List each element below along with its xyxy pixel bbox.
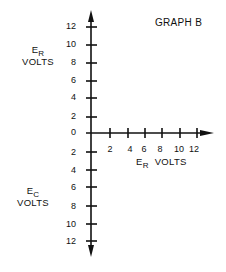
- y-tick-label: 8: [56, 202, 76, 211]
- y-tick-label: 4: [56, 93, 76, 102]
- y-tick-label: 6: [56, 76, 76, 85]
- y-lower-axis-label: EC VOLTS: [15, 186, 51, 208]
- y-tick-label: 12: [56, 237, 76, 246]
- x-tick-label: 8: [152, 145, 168, 154]
- x-tick-label: 10: [171, 145, 187, 154]
- up-arrow-icon: [88, 10, 94, 22]
- y-tick-label: 12: [56, 22, 76, 31]
- y-upper-label-sub: R: [38, 49, 44, 58]
- y-tick-label: 10: [56, 40, 76, 49]
- y-tick-label: 8: [56, 58, 76, 67]
- y-tick-label: 2: [56, 112, 76, 121]
- y-tick-label: 4: [56, 166, 76, 175]
- x-tick-label: 12: [186, 145, 202, 154]
- x-label-main: E: [136, 156, 143, 167]
- x-label-sub: R: [143, 161, 149, 170]
- y-upper-axis-label: ER VOLTS: [20, 45, 56, 67]
- x-tick-label: 2: [102, 145, 118, 154]
- x-label-unit: VOLTS: [155, 156, 187, 167]
- y-tick-label: 10: [56, 220, 76, 229]
- y-lower-label-sub: C: [33, 190, 39, 199]
- graph-axes: [0, 0, 226, 272]
- y-tick-label: 0: [56, 128, 76, 137]
- y-tick-label: 6: [56, 183, 76, 192]
- right-arrow-icon: [200, 130, 214, 136]
- x-tick-label: 6: [136, 145, 152, 154]
- y-upper-label-unit: VOLTS: [20, 57, 56, 67]
- down-arrow-icon: [88, 245, 94, 257]
- x-axis-label: ER VOLTS: [136, 157, 187, 168]
- y-tick-label: 2: [56, 148, 76, 157]
- y-lower-label-unit: VOLTS: [15, 198, 51, 208]
- graph-title: GRAPH B: [155, 18, 202, 28]
